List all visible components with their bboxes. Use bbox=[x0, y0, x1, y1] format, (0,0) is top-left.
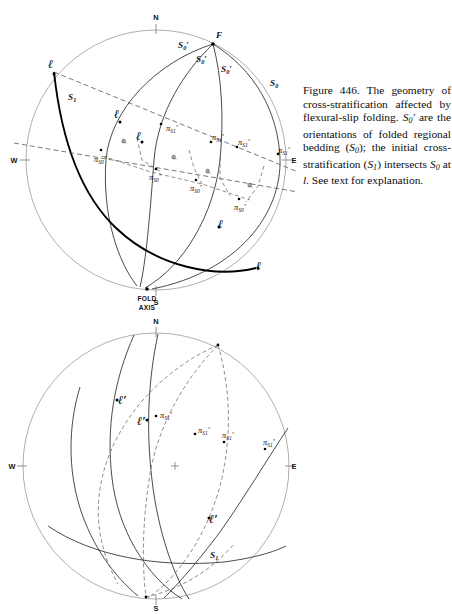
stereonet-446-svg: N S W E bbox=[6, 0, 298, 318]
label-s0-prime-3: S0′ bbox=[221, 64, 232, 75]
point-pi-s0-c bbox=[195, 179, 198, 182]
label-pi-447-b: πS1′ bbox=[198, 426, 210, 436]
label-l-4: ℓ bbox=[218, 217, 223, 231]
label-s0: S0 bbox=[270, 78, 278, 89]
figure-446: N S W E bbox=[0, 0, 452, 318]
label-pi-s1-b: πS1′ bbox=[212, 133, 224, 143]
label-l-5: ℓ bbox=[256, 259, 261, 273]
primitive-circle bbox=[26, 30, 286, 290]
s1-prime-solid-3 bbox=[149, 334, 189, 599]
compass-east-447: E bbox=[292, 462, 297, 471]
label-pi-s0-b: πS0′ bbox=[149, 173, 161, 183]
label-pi-s0-c: πS0′ bbox=[190, 184, 202, 194]
l-labels-446: ℓ ℓ ℓ ℓ ℓ bbox=[48, 57, 261, 273]
primitive-circle-447 bbox=[23, 333, 289, 599]
label-l-3: ℓ bbox=[136, 129, 141, 143]
s-plane-labels-446: S0′ S0′ S0′ S0 S1 bbox=[68, 40, 278, 103]
label-pi-s1-d: πS1′ bbox=[278, 146, 290, 156]
s1-prime-solid-1 bbox=[71, 387, 138, 596]
compass-north-447: N bbox=[153, 318, 158, 326]
point-pi-s1-a bbox=[160, 123, 163, 126]
phi-labels-446: φ φ φ φ bbox=[118, 136, 254, 189]
stereonet-447: N S W E bbox=[6, 318, 298, 614]
stereonet-446: N S W E bbox=[6, 0, 298, 318]
label-l-prime-3: ℓ′ bbox=[209, 512, 218, 526]
pi-labels-446: πS1′ πS0′ πS1′ πS1′ πS1′ πS0′ πS0′ πS0′ bbox=[94, 124, 290, 213]
label-phi-4: φ bbox=[244, 180, 254, 189]
phi-connector-3 bbox=[220, 157, 230, 196]
point-l-1 bbox=[53, 73, 56, 76]
label-pi-s0-a: πS0′ bbox=[94, 155, 106, 165]
label-s1: S1 bbox=[68, 92, 76, 103]
l-labels-447: ℓ′ ℓ′ ℓ′ bbox=[118, 393, 218, 526]
label-fold-axis-line2: AXIS bbox=[139, 304, 156, 311]
s1-prime-solid-2 bbox=[110, 335, 182, 599]
s0-prime-dash-4 bbox=[146, 544, 234, 597]
label-phi-2: φ bbox=[168, 152, 178, 161]
point-beta-447 bbox=[217, 344, 220, 347]
label-phi-3: φ bbox=[202, 166, 212, 175]
s0-prime-dash-2 bbox=[143, 345, 218, 597]
label-phi-1: φ bbox=[118, 136, 128, 145]
dash-trace-2 bbox=[14, 143, 298, 192]
label-s0-prime-1: S0′ bbox=[178, 40, 189, 51]
point-l-prime-2 bbox=[146, 419, 149, 422]
phi-connector-1 bbox=[137, 138, 161, 172]
s0-prime-dash-1 bbox=[98, 345, 218, 584]
label-l-prime-1: ℓ′ bbox=[118, 393, 127, 407]
caption-figure-446: Figure 446. The geometry of cross-strati… bbox=[303, 84, 451, 188]
label-fold-axis-line1: FOLD bbox=[137, 295, 156, 302]
label-pi-s1-c: πS1′ bbox=[238, 138, 250, 148]
label-pi-447-d: πS1′ bbox=[263, 438, 275, 448]
point-pi-447-c bbox=[223, 441, 226, 444]
compass-east: E bbox=[292, 156, 297, 165]
center-cross-447 bbox=[171, 462, 179, 470]
point-pi-447-a bbox=[155, 415, 158, 418]
stereonet-447-svg: N S W E bbox=[6, 318, 298, 614]
point-f bbox=[211, 42, 215, 46]
compass-south-447: S bbox=[154, 604, 159, 613]
point-fold-axis bbox=[145, 287, 149, 291]
pi-labels-447: πS1′ πS1′ πS1′ πS1′ bbox=[160, 411, 275, 448]
point-pi-s0-a bbox=[100, 149, 103, 152]
compass-west: W bbox=[11, 156, 18, 165]
s1-prime-solid-4 bbox=[164, 428, 288, 598]
great-circle-s0 bbox=[152, 44, 280, 289]
label-f-pole: F bbox=[215, 30, 222, 40]
point-beta-lower-447 bbox=[145, 596, 148, 599]
label-pi-s0-d: πS0′ bbox=[234, 203, 246, 213]
label-l-prime-2: ℓ′ bbox=[137, 414, 146, 428]
compass-north: N bbox=[153, 13, 158, 22]
great-circle-s0-prime-outer bbox=[105, 44, 213, 286]
label-s1-447: S1 bbox=[210, 550, 218, 561]
compass-west-447: W bbox=[9, 462, 16, 471]
point-pi-s0-b bbox=[155, 168, 158, 171]
figure-447: N S W E bbox=[0, 318, 452, 614]
point-pi-447-d bbox=[264, 448, 267, 451]
great-circle-s0-prime-inner bbox=[145, 44, 222, 288]
label-pi-s1-a: πS1′ bbox=[166, 124, 178, 134]
label-l-2: ℓ bbox=[114, 107, 119, 121]
label-pi-447-a: πS1′ bbox=[160, 411, 172, 421]
label-l-1: ℓ bbox=[48, 57, 53, 71]
page-root: N S W E bbox=[0, 0, 452, 614]
dash-trace-3 bbox=[102, 156, 250, 200]
great-circle-s1-heavy bbox=[54, 72, 256, 272]
s1-solid-arc bbox=[48, 526, 286, 564]
point-pi-s0-d bbox=[238, 198, 241, 201]
point-pi-447-b bbox=[194, 433, 197, 436]
